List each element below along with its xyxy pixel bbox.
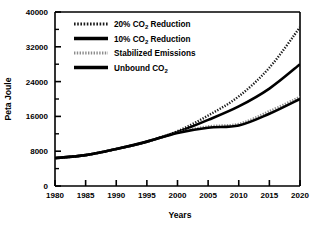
x-tick-label: 1990: [107, 191, 125, 200]
y-tick-label: 16000: [26, 112, 49, 121]
x-tick-label: 2010: [230, 191, 248, 200]
legend-label: Stabilized Emissions: [114, 49, 196, 58]
x-tick-label: 2020: [291, 191, 309, 200]
y-axis-ticks: [55, 12, 61, 186]
y-tick-label: 24000: [26, 78, 49, 87]
legend-label: 10% CO2 Reduction: [114, 35, 191, 45]
y-tick-label: 8000: [30, 147, 48, 156]
x-tick-label: 1985: [77, 191, 95, 200]
y-tick-label: 32000: [26, 43, 49, 52]
series-line: [55, 97, 300, 158]
data-series-group: [55, 27, 300, 158]
y-tick-label: 40000: [26, 8, 49, 17]
x-axis-tick-labels: 198019851990199520002005201020152020: [46, 191, 309, 200]
x-tick-label: 2005: [199, 191, 217, 200]
x-axis-ticks: [55, 180, 300, 186]
series-line: [55, 99, 300, 158]
x-tick-label: 2015: [260, 191, 278, 200]
chart-legend: 20% CO2 Reduction10% CO2 ReductionStabil…: [74, 20, 196, 74]
line-chart: 0800016000240003200040000 19801985199019…: [0, 0, 314, 226]
y-axis-title: Peta Joule: [3, 77, 13, 120]
x-tick-label: 1980: [46, 191, 64, 200]
x-tick-label: 2000: [169, 191, 187, 200]
series-line: [55, 64, 300, 158]
chart-figure: 0800016000240003200040000 19801985199019…: [0, 0, 314, 226]
x-tick-label: 1995: [138, 191, 156, 200]
y-tick-label: 0: [44, 182, 49, 191]
y-axis-tick-labels: 0800016000240003200040000: [26, 8, 49, 191]
legend-label: Unbound CO2: [114, 64, 168, 74]
x-axis-title: Years: [169, 210, 192, 220]
legend-label: 20% CO2 Reduction: [114, 20, 191, 30]
